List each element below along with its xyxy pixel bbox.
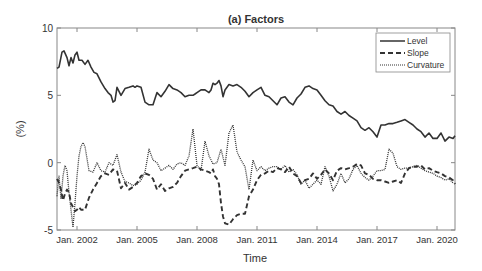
x-tick-label: Jan. 2008 [176,234,218,245]
legend-slope-label: Slope [407,48,429,58]
chart-title: (a) Factors [228,13,284,25]
legend-curvature-label: Curvature [407,60,445,70]
x-tick-label: Jan. 2005 [116,234,158,245]
x-axis-label: Time [243,252,267,264]
x-tick-label: Jan. 2020 [416,234,458,245]
series-slope-line [57,164,455,225]
legend: Level Slope Curvature [376,33,450,72]
y-tick-label: -5 [44,225,53,236]
y-tick-label: 0 [47,158,53,169]
series-lines [57,51,455,227]
x-tick-label: Jan. 2011 [236,234,277,245]
y-tick-label: 5 [47,90,53,101]
y-axis-label: (%) [14,120,26,137]
x-tick-label: Jan. 2002 [56,234,98,245]
series-curvature-line [57,125,453,227]
factors-chart: (a) Factors -50510 Jan. 2002Jan. 2005Jan… [0,0,482,271]
x-tick-label: Jan. 2014 [296,234,338,245]
x-tick-label: Jan. 2017 [356,234,398,245]
legend-level-label: Level [407,36,427,46]
y-tick-label: 10 [42,23,54,34]
